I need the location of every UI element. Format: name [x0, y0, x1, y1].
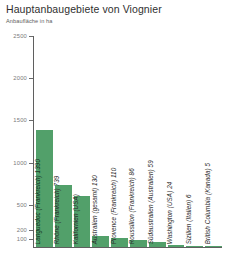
bar[interactable]	[186, 246, 203, 247]
y-tick-label: 1500	[13, 117, 27, 123]
bar-label: Roussillon (Frankreich) 86	[129, 168, 135, 244]
bar-label: Rhône (Frankreich) 739	[54, 175, 60, 244]
page-title: Hauptanbaugebiete von Viognier	[6, 3, 162, 15]
y-tick-label: 500	[17, 202, 27, 208]
y-tick-label: 1000	[13, 160, 27, 166]
bar-item[interactable]: Südaustralien (Australien) 59	[149, 36, 166, 247]
bar-item[interactable]: Provence (Frankreich) 110	[111, 36, 128, 247]
bar-label: Languedoc (Frankreich) 1390	[35, 159, 41, 244]
x-axis-line	[33, 247, 222, 248]
y-tick-mark	[29, 120, 33, 121]
bar-series: Languedoc (Frankreich) 1390Rhône (Frankr…	[34, 36, 222, 247]
y-tick-label: 100	[17, 236, 27, 242]
y-tick-mark	[29, 163, 33, 164]
bar-label: Kalifornien (USA)	[73, 194, 79, 244]
chart-container: Hauptanbaugebiete von Viognier Anbaufläc…	[0, 0, 228, 275]
plot-area: 2500200015001000500200100 Languedoc (Fra…	[33, 36, 222, 248]
y-tick-mark	[29, 78, 33, 79]
bar-item[interactable]: Languedoc (Frankreich) 1390	[36, 36, 53, 247]
bar-item[interactable]: Washington (USA) 24	[168, 36, 185, 247]
y-tick-mark	[29, 36, 33, 37]
bar-label: Australien (gesamt) 130	[91, 175, 97, 244]
bar-label: Südaustralien (Australien) 59	[148, 160, 154, 244]
y-tick-mark	[29, 205, 33, 206]
y-tick-label: 200	[17, 227, 27, 233]
y-tick-mark	[29, 239, 33, 240]
bar-label: Provence (Frankreich) 110	[110, 167, 116, 244]
bar-label: Sizilien (Italien) 6	[185, 194, 191, 244]
bar-item[interactable]: British Columbia (Kanada) 5	[205, 36, 222, 247]
bar-label: Washington (USA) 24	[167, 181, 173, 244]
bar-item[interactable]: Kalifornien (USA)	[74, 36, 91, 247]
y-tick-label: 2000	[13, 75, 27, 81]
bar-item[interactable]: Australien (gesamt) 130	[92, 36, 109, 247]
bar[interactable]	[168, 245, 185, 247]
y-tick-label: 2500	[13, 33, 27, 39]
bar[interactable]	[205, 246, 222, 247]
chart-subtitle: Anbaufläche in ha	[6, 18, 53, 24]
bar-label: British Columbia (Kanada) 5	[204, 163, 210, 244]
bar-item[interactable]: Sizilien (Italien) 6	[186, 36, 203, 247]
bar-item[interactable]: Roussillon (Frankreich) 86	[130, 36, 147, 247]
bar-item[interactable]: Rhône (Frankreich) 739	[55, 36, 72, 247]
y-tick-mark	[29, 230, 33, 231]
